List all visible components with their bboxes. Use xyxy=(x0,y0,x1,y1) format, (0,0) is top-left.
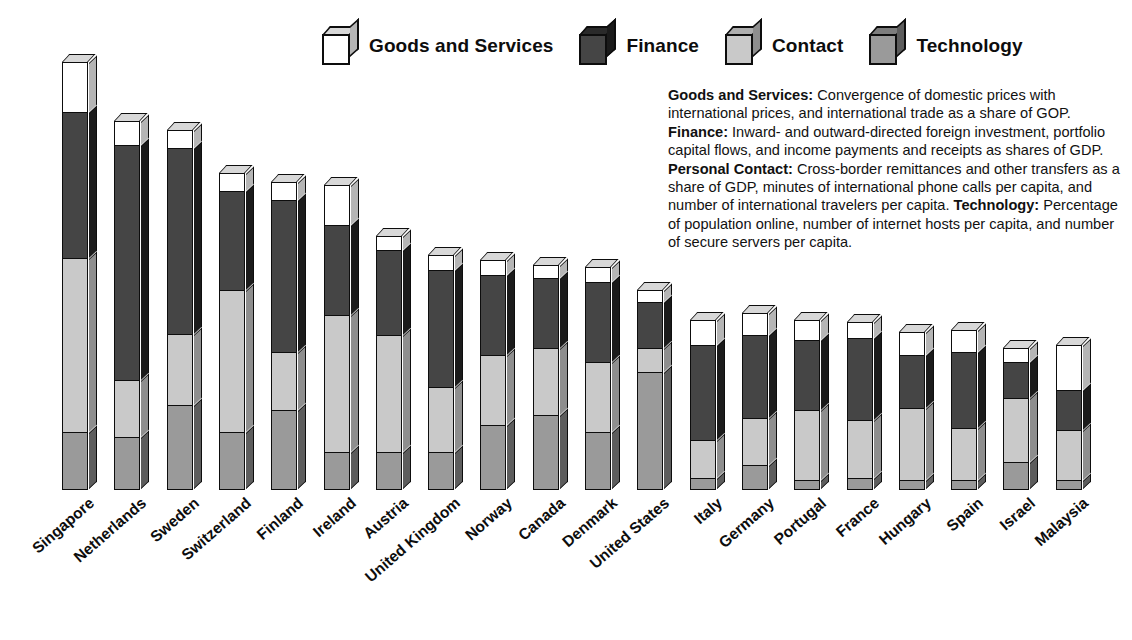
segment-side-face xyxy=(455,445,463,489)
x-axis-label-text: France xyxy=(832,494,882,541)
segment-goods xyxy=(1003,348,1029,362)
segment-side-face xyxy=(298,404,306,489)
segment-tech xyxy=(480,425,506,490)
segment-side-face xyxy=(455,264,463,387)
segment-contact xyxy=(167,334,193,405)
segment-contact xyxy=(480,355,506,425)
x-axis-label-text: Portugal xyxy=(771,494,830,549)
segment-tech xyxy=(899,480,925,490)
segment-contact xyxy=(271,352,297,410)
segment-side-face xyxy=(89,106,97,258)
segment-goods xyxy=(742,313,768,335)
segment-finance xyxy=(847,338,873,420)
bar-stack xyxy=(480,260,506,490)
x-axis-label-text: Ireland xyxy=(309,494,359,541)
segment-tech xyxy=(951,480,977,490)
segment-side-face xyxy=(403,329,411,452)
segment-goods xyxy=(690,320,716,345)
segment-contact xyxy=(1056,430,1082,480)
segment-side-face xyxy=(507,418,515,489)
bar-stack xyxy=(428,255,454,490)
segment-side-face xyxy=(978,346,986,429)
segment-side-face xyxy=(1030,392,1038,463)
segment-tech xyxy=(376,452,402,490)
segment-side-face xyxy=(926,402,934,480)
segment-side-face xyxy=(298,345,306,410)
segment-side-face xyxy=(1083,339,1091,390)
bar-stack xyxy=(271,182,297,490)
segment-side-face xyxy=(351,179,359,225)
bar-stack xyxy=(690,320,716,490)
segment-tech xyxy=(62,432,88,490)
segment-contact xyxy=(847,420,873,478)
x-axis-label-ireland: Ireland xyxy=(309,494,359,541)
segment-side-face xyxy=(664,365,672,489)
segment-finance xyxy=(271,200,297,352)
segment-goods xyxy=(847,322,873,338)
segment-goods xyxy=(219,173,245,191)
segment-finance xyxy=(585,282,611,362)
segment-tech xyxy=(585,432,611,490)
segment-goods xyxy=(480,260,506,275)
segment-finance xyxy=(376,250,402,335)
segment-tech xyxy=(219,432,245,490)
segment-contact xyxy=(1003,398,1029,462)
bar-stack xyxy=(1003,348,1029,490)
segment-contact xyxy=(742,418,768,465)
segment-side-face xyxy=(194,327,202,405)
x-axis-label-germany: Germany xyxy=(715,494,778,552)
segment-side-face xyxy=(194,398,202,489)
segment-goods xyxy=(62,62,88,112)
segment-side-face xyxy=(769,329,777,418)
segment-side-face xyxy=(507,268,515,354)
segment-side-face xyxy=(141,430,149,489)
x-axis-label-hungary: Hungary xyxy=(875,494,934,549)
segment-side-face xyxy=(612,355,620,432)
segment-tech xyxy=(271,410,297,490)
segment-tech xyxy=(742,465,768,490)
segment-tech xyxy=(428,452,454,490)
segment-goods xyxy=(533,265,559,278)
segment-tech xyxy=(1003,462,1029,490)
x-axis-label-text: Norway xyxy=(462,494,516,544)
segment-finance xyxy=(742,335,768,418)
segment-finance xyxy=(899,355,925,408)
segment-goods xyxy=(167,130,193,148)
segment-contact xyxy=(376,335,402,452)
bar-stack xyxy=(533,265,559,490)
segment-side-face xyxy=(194,141,202,334)
segment-goods xyxy=(271,182,297,200)
segment-finance xyxy=(794,340,820,410)
plot-area xyxy=(0,0,1132,500)
x-axis-label-text: Israel xyxy=(997,494,1039,534)
segment-side-face xyxy=(246,284,254,433)
segment-contact xyxy=(637,348,663,372)
segment-side-face xyxy=(612,425,620,489)
segment-contact xyxy=(219,290,245,432)
x-axis-label-text: United Kingdom xyxy=(362,494,464,586)
segment-side-face xyxy=(560,271,568,348)
x-axis-label-text: Italy xyxy=(690,494,725,528)
bar-stack xyxy=(951,330,977,490)
x-axis-label-text: Germany xyxy=(715,494,778,552)
bar-stack xyxy=(847,322,873,490)
segment-side-face xyxy=(246,185,254,290)
segment-contact xyxy=(951,428,977,480)
segment-side-face xyxy=(298,193,306,351)
segment-contact xyxy=(324,315,350,452)
segment-side-face xyxy=(769,412,777,466)
x-axis-label-malaysia: Malaysia xyxy=(1031,494,1092,550)
segment-tech xyxy=(637,372,663,490)
segment-contact xyxy=(794,410,820,480)
x-axis-label-text: Spain xyxy=(943,494,987,535)
segment-tech xyxy=(794,480,820,490)
bar-stack xyxy=(324,185,350,490)
x-axis-label-text: Malaysia xyxy=(1031,494,1092,550)
segment-goods xyxy=(794,320,820,340)
x-axis-label-spain: Spain xyxy=(943,494,987,535)
segment-goods xyxy=(376,236,402,250)
bar-stack xyxy=(637,290,663,490)
segment-side-face xyxy=(874,413,882,478)
segment-contact xyxy=(428,387,454,452)
bar-stack xyxy=(1056,345,1082,490)
